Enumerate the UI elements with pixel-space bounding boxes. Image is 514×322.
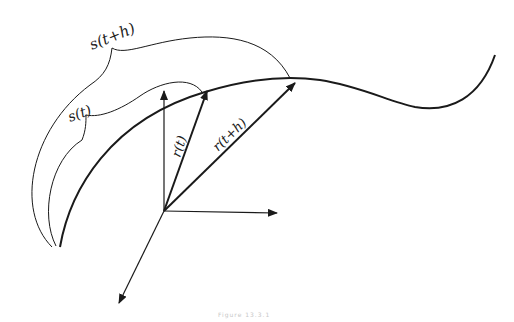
- y-axis-arrow: [164, 211, 277, 213]
- diagram-canvas: s(t+h) s(t) r(t) r(t+h) Figure 13.3.1: [0, 0, 514, 322]
- arc-length-diagram: s(t+h) s(t) r(t) r(t+h): [0, 0, 514, 322]
- space-curve: [60, 55, 495, 247]
- x-axis-arrow: [119, 211, 164, 303]
- label-s-t: s(t): [66, 102, 94, 125]
- label-r-t: r(t): [169, 134, 190, 159]
- figure-caption: Figure 13.3.1: [218, 311, 270, 318]
- arc-length-brace-s-t-plus-h: [32, 37, 290, 247]
